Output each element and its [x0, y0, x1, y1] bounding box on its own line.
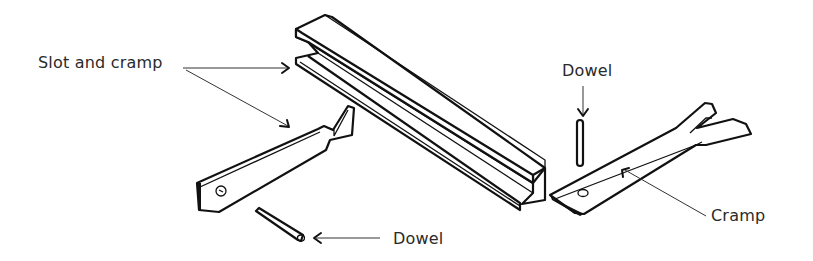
leader-slot-cramp — [186, 70, 289, 127]
leader-dowel-right — [578, 86, 588, 116]
diagram-artwork — [0, 0, 813, 261]
leader-slot-rail — [183, 63, 289, 73]
dowel-right — [577, 120, 583, 166]
label-dowel-right: Dowel — [562, 61, 612, 80]
diagram-canvas: Slot and cramp Dowel Dowel Cramp — [0, 0, 813, 261]
leader-dowel-left — [314, 233, 380, 243]
leader-cramp — [622, 168, 706, 216]
slotted-rail — [296, 15, 545, 210]
dowel-left — [256, 208, 305, 241]
slot-cramp — [197, 106, 354, 212]
label-cramp: Cramp — [711, 206, 765, 225]
label-dowel-left: Dowel — [393, 229, 443, 248]
label-slot-and-cramp: Slot and cramp — [38, 53, 163, 72]
